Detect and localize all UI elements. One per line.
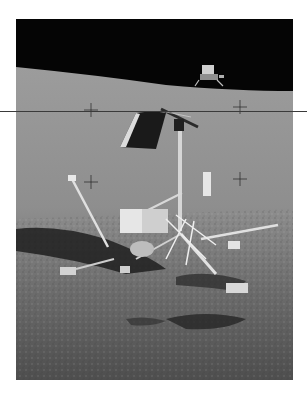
- lunar-scene: [16, 19, 293, 380]
- horizontal-rule-overlay: [0, 111, 307, 112]
- lunar-photograph: [16, 19, 293, 380]
